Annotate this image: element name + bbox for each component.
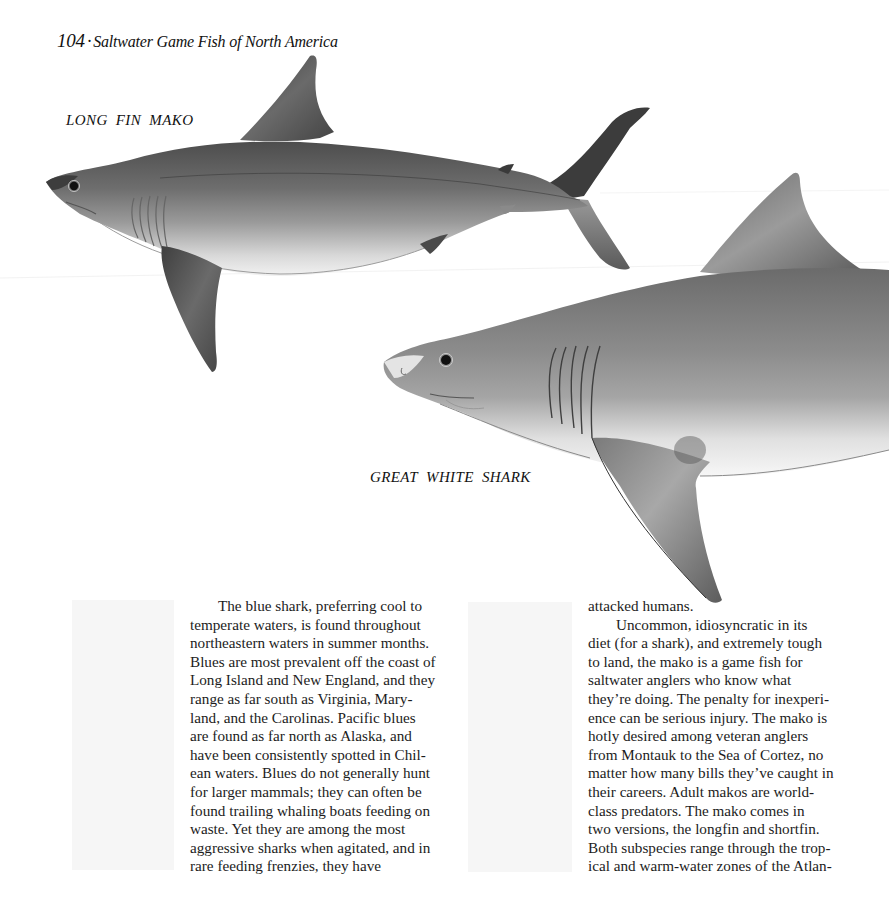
text-line: Long Island and New England, and they — [190, 671, 452, 690]
text-line: range as far south as Virginia, Mary- — [190, 690, 452, 709]
text-line: they’re doing. The penalty for inexperi- — [588, 690, 848, 709]
ghost-text-block-right — [468, 602, 572, 872]
text-line: are found as far north as Alaska, and — [190, 727, 452, 746]
text-line: northeastern waters in summer months. — [190, 634, 452, 653]
text-line: The blue shark, preferring cool to — [190, 597, 452, 616]
caption-long-fin-mako: LONG FIN MAKO — [66, 112, 193, 129]
text-line: hotly desired among veteran anglers — [588, 727, 848, 746]
text-line: Both subspecies range through the trop- — [588, 839, 848, 858]
text-line: ical and warm-water zones of the Atlan- — [588, 857, 848, 876]
text-line: temperate waters, is found throughout — [190, 616, 452, 635]
text-line: class predators. The mako comes in — [588, 802, 848, 821]
text-line: ean waters. Blues do not generally hunt — [190, 764, 452, 783]
text-line: two versions, the longfin and shortfin. — [588, 820, 848, 839]
text-line: attacked humans. — [588, 597, 848, 616]
text-line: saltwater anglers who know what — [588, 671, 848, 690]
text-line: their careers. Adult makos are world- — [588, 783, 848, 802]
header-separator: · — [87, 31, 91, 51]
text-line: land, and the Carolinas. Pacific blues — [190, 709, 452, 728]
great-white-shark-illustration — [384, 173, 889, 603]
text-line: matter how many bills they’ve caught in — [588, 764, 848, 783]
text-line: diet (for a shark), and extremely tough — [588, 634, 848, 653]
text-line: to land, the mako is a game fish for — [588, 653, 848, 672]
text-line: aggressive sharks when agitated, and in — [190, 839, 452, 858]
text-line: Blues are most prevalent off the coast o… — [190, 653, 452, 672]
book-title: Saltwater Game Fish of North America — [93, 33, 338, 50]
text-line: Uncommon, idiosyncratic in its — [588, 616, 848, 635]
text-line: have been consistently spotted in Chil- — [190, 746, 452, 765]
text-line: for larger mammals; they can often be — [190, 783, 452, 802]
ghost-text-block-left — [72, 600, 174, 870]
caption-great-white-shark: GREAT WHITE SHARK — [370, 469, 531, 486]
text-line: rare feeding frenzies, they have — [190, 857, 452, 876]
text-line: waste. Yet they are among the most — [190, 820, 452, 839]
text-line: from Montauk to the Sea of Cortez, no — [588, 746, 848, 765]
running-header: 104·Saltwater Game Fish of North America — [57, 30, 338, 52]
text-line: ence can be serious injury. The mako is — [588, 709, 848, 728]
body-text-left-column: The blue shark, preferring cool to tempe… — [190, 597, 452, 876]
long-fin-mako-shark-illustration — [46, 56, 650, 372]
text-line: found trailing whaling boats feeding on — [190, 802, 452, 821]
page-number: 104 — [57, 30, 85, 51]
body-text-right-column: attacked humans. Uncommon, idiosyncratic… — [588, 597, 848, 876]
scan-lines — [0, 190, 889, 278]
